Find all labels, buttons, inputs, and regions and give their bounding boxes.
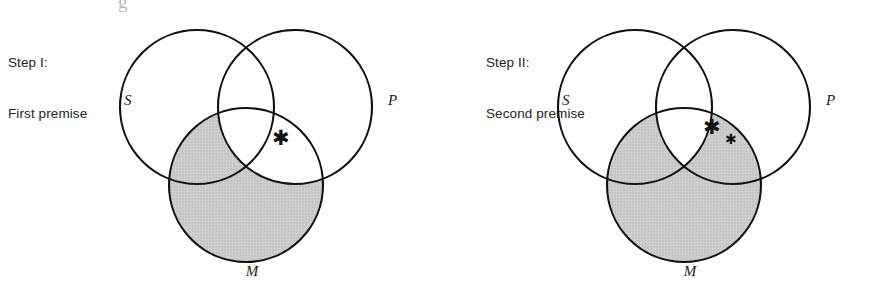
venn-figure-root: g Step I: First premise xyxy=(0,0,876,287)
set-label-m: M xyxy=(683,263,698,279)
star-spm-edge-marker: ✱ xyxy=(725,131,737,147)
set-label-s: S xyxy=(562,92,570,108)
shaded-region-m-minus-sp xyxy=(438,0,876,287)
set-label-p: P xyxy=(387,92,397,108)
venn-diagram-step-2: S P M ✱ ✱ xyxy=(438,0,876,287)
set-label-s: S xyxy=(124,92,132,108)
shaded-region-m-minus-p xyxy=(0,0,438,287)
set-label-m: M xyxy=(245,263,260,279)
panel-step-1: Step I: First premise xyxy=(0,0,438,287)
star-sp-marker: ✱ xyxy=(272,126,290,149)
venn-diagram-step-1: S P M ✱ xyxy=(0,0,438,287)
panel-step-2: Step II: Second premise xyxy=(438,0,876,287)
star-spm-marker: ✱ xyxy=(703,115,721,138)
set-label-p: P xyxy=(825,92,835,108)
